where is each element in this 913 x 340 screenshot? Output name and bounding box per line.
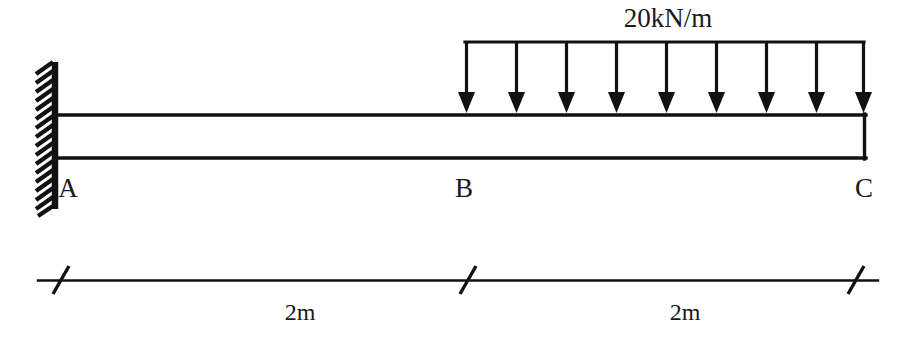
- wall-hatching: [36, 62, 53, 216]
- distributed-load-label: 20kN/m: [624, 3, 713, 33]
- beam: [55, 114, 866, 159]
- dimension-line-group: 2m 2m: [38, 266, 878, 325]
- beam-diagram-canvas: 20kN/m A B C 2m 2m: [0, 0, 913, 340]
- node-label-a: A: [58, 173, 78, 203]
- beam-diagram-svg: 20kN/m A B C 2m 2m: [0, 0, 913, 340]
- distributed-load-group: 20kN/m: [458, 3, 872, 113]
- load-arrow: [758, 42, 775, 113]
- load-arrow: [708, 42, 725, 113]
- node-label-b: B: [455, 173, 473, 203]
- load-arrow: [508, 42, 525, 113]
- dimension-label-ab: 2m: [285, 299, 316, 325]
- fixed-support-wall: [36, 62, 55, 216]
- load-arrow: [658, 42, 675, 113]
- load-arrow: [608, 42, 625, 113]
- load-arrow: [458, 42, 475, 113]
- load-arrow: [855, 42, 872, 113]
- load-arrow: [558, 42, 575, 113]
- node-label-c: C: [855, 173, 873, 203]
- load-arrow: [808, 42, 825, 113]
- dimension-label-bc: 2m: [670, 299, 701, 325]
